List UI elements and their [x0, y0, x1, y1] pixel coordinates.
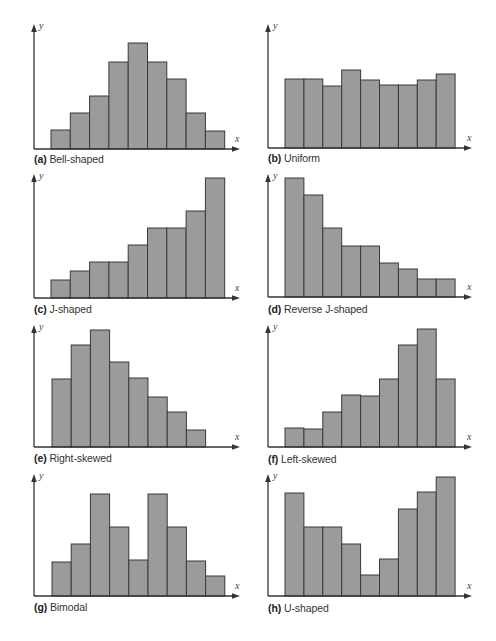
- panel-letter: (b): [268, 152, 281, 164]
- panel-title: Bimodal: [50, 601, 87, 613]
- histogram-bar: [71, 345, 90, 447]
- y-axis-label: y: [273, 321, 277, 332]
- histogram-bar: [342, 395, 361, 447]
- histogram-bar: [186, 211, 205, 298]
- panel-letter: (d): [268, 303, 281, 315]
- histogram-bar: [323, 527, 342, 596]
- histogram-bar: [380, 379, 399, 447]
- histogram-bar: [186, 430, 205, 447]
- x-axis-arrow-icon: [464, 294, 472, 300]
- histogram-bar: [167, 79, 186, 149]
- histogram-a: [31, 24, 240, 152]
- panel-title: Bell-shaped: [49, 153, 103, 165]
- x-axis-arrow-icon: [232, 146, 240, 152]
- panel-letter: (g): [34, 601, 47, 613]
- panel-caption: (e) Right-skewed: [34, 452, 112, 464]
- histogram-bar: [148, 62, 167, 149]
- histogram-bar: [90, 494, 109, 596]
- x-axis-label: x: [467, 580, 471, 591]
- panel-letter: (c): [34, 303, 47, 315]
- x-axis-label: x: [467, 281, 471, 292]
- histogram-bar: [323, 228, 342, 297]
- histogram-bar: [436, 477, 455, 596]
- histogram-bar: [380, 263, 399, 297]
- histogram-bar: [167, 412, 186, 447]
- panel-title: Uniform: [284, 152, 320, 164]
- histogram-g: [31, 474, 240, 599]
- histogram-bar: [304, 79, 323, 148]
- y-axis-arrow-icon: [265, 474, 271, 482]
- histogram-bar: [342, 544, 361, 596]
- y-axis-arrow-icon: [265, 325, 271, 333]
- histogram-bar: [436, 379, 455, 447]
- histogram-bar: [436, 74, 455, 148]
- panel-title: J-shaped: [49, 303, 91, 315]
- y-axis-label: y: [39, 321, 43, 332]
- panel-caption: (f) Left-skewed: [268, 453, 337, 465]
- panel-caption: (c) J-shaped: [34, 303, 92, 315]
- histogram-bar: [206, 576, 225, 596]
- histogram-bar: [361, 575, 380, 596]
- histogram-bar: [398, 345, 417, 447]
- histogram-bar: [417, 80, 436, 148]
- histogram-b: [265, 24, 472, 151]
- x-axis-label: x: [235, 282, 239, 293]
- plots-canvas: [0, 0, 496, 641]
- histogram-bar: [417, 279, 436, 297]
- x-axis-arrow-icon: [232, 295, 240, 301]
- histogram-bar: [110, 527, 129, 596]
- histogram-h: [265, 474, 472, 599]
- x-axis-label: x: [467, 431, 471, 442]
- x-axis-arrow-icon: [464, 444, 472, 450]
- y-axis-arrow-icon: [265, 24, 271, 32]
- histogram-bar: [109, 62, 128, 149]
- y-axis-label: y: [39, 170, 43, 181]
- histogram-bar: [323, 412, 342, 447]
- histogram-bar: [51, 280, 70, 298]
- histogram-e: [31, 325, 240, 450]
- panel-title: U-shaped: [284, 602, 329, 614]
- histogram-shapes-figure: y x (a) Bell-shaped y x (b) Uniform y x …: [0, 0, 496, 641]
- histogram-bar: [304, 195, 323, 297]
- y-axis-label: y: [273, 470, 277, 481]
- histogram-bar: [436, 279, 455, 297]
- y-axis-arrow-icon: [31, 24, 37, 32]
- histogram-d: [265, 174, 472, 300]
- y-axis-arrow-icon: [31, 174, 37, 182]
- x-axis-label: x: [235, 580, 239, 591]
- panel-letter: (e): [34, 452, 47, 464]
- histogram-bar: [90, 330, 109, 447]
- y-axis-label: y: [273, 170, 277, 181]
- histogram-bar: [398, 509, 417, 596]
- histogram-bar: [186, 561, 205, 596]
- histogram-bar: [71, 544, 90, 596]
- histogram-bar: [361, 80, 380, 148]
- histogram-bar: [109, 262, 128, 298]
- histogram-bar: [205, 178, 224, 298]
- histogram-bar: [52, 379, 71, 447]
- histogram-bar: [70, 271, 89, 298]
- histogram-bar: [285, 178, 304, 297]
- histogram-bar: [128, 245, 147, 298]
- histogram-bar: [398, 269, 417, 297]
- histogram-bar: [51, 130, 70, 149]
- histogram-bar: [129, 560, 148, 596]
- histogram-bar: [167, 527, 186, 596]
- y-axis-arrow-icon: [31, 325, 37, 333]
- histogram-bar: [167, 228, 186, 298]
- histogram-bar: [148, 494, 167, 596]
- histogram-bar: [52, 562, 71, 596]
- histogram-bar: [304, 527, 323, 596]
- panel-letter: (f): [268, 453, 278, 465]
- histogram-bar: [129, 378, 148, 447]
- histogram-bar: [205, 131, 224, 149]
- x-axis-arrow-icon: [464, 145, 472, 151]
- histogram-bar: [90, 262, 109, 298]
- histogram-bar: [361, 396, 380, 447]
- panel-title: Reverse J-shaped: [284, 303, 368, 315]
- histogram-bar: [285, 428, 304, 447]
- panel-title: Left-skewed: [281, 453, 337, 465]
- histogram-bar: [148, 228, 167, 298]
- y-axis-label: y: [273, 20, 277, 31]
- x-axis-label: x: [235, 431, 239, 442]
